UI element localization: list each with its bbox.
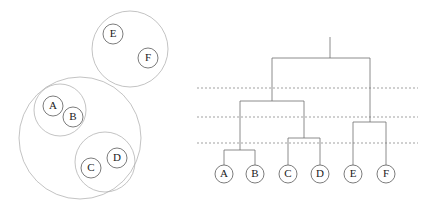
venn-item-label-b: B xyxy=(69,110,76,122)
venn-item-layer: ABCDEF xyxy=(43,24,158,178)
cut-line-layer xyxy=(197,88,418,143)
merge-ef xyxy=(353,122,386,165)
group-ef-outline xyxy=(92,11,168,87)
dendrogram-leaf-label-c: C xyxy=(284,167,291,179)
venn-item-label-f: F xyxy=(145,51,151,63)
figure-canvas: ABCDEF ABCDEF xyxy=(0,0,423,213)
dendrogram-leaf-label-a: A xyxy=(220,167,228,179)
dendrogram-leaf-label-b: B xyxy=(251,167,258,179)
dendrogram-leaf-label-d: D xyxy=(316,167,324,179)
venn-item-label-d: D xyxy=(113,151,121,163)
dendrogram-link-layer xyxy=(224,37,386,165)
venn-item-label-e: E xyxy=(110,27,117,39)
merge-root xyxy=(272,58,370,122)
merge-cd xyxy=(288,138,320,165)
venn-item-label-c: C xyxy=(87,161,94,173)
merge-ab xyxy=(224,150,255,165)
venn-item-label-a: A xyxy=(49,99,57,111)
dendrogram-leaf-layer: ABCDEF xyxy=(215,165,395,183)
dendrogram-leaf-label-e: E xyxy=(350,167,357,179)
dendrogram-leaf-label-f: F xyxy=(383,167,389,179)
cluster-figure: ABCDEF ABCDEF xyxy=(0,0,423,213)
